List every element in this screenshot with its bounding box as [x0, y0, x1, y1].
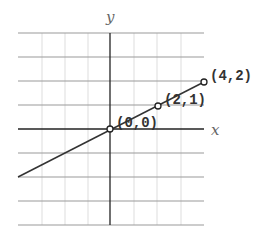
point-4-2 — [201, 79, 207, 85]
line-chart: y x (0,0) (2,1) (4,2) — [0, 0, 266, 236]
y-axis-label: y — [105, 8, 115, 26]
point-label-4-2: (4,2) — [210, 68, 252, 84]
point-0-0 — [107, 126, 113, 132]
point-label-2-1: (2,1) — [164, 92, 206, 108]
x-axis-label: x — [211, 121, 220, 139]
point-2-1 — [155, 103, 161, 109]
point-label-0-0: (0,0) — [116, 115, 158, 131]
